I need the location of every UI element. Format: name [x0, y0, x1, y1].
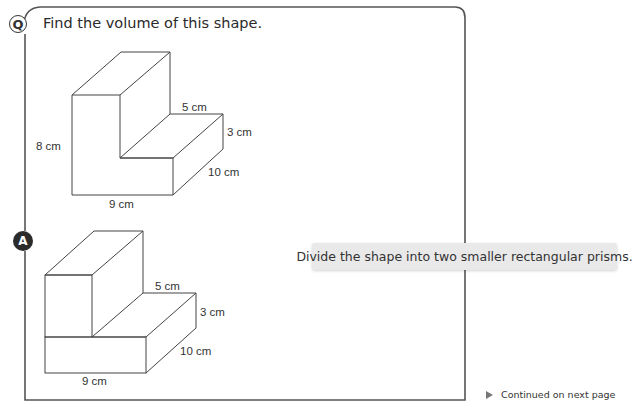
label-width: 9 cm	[109, 198, 134, 210]
answer-label-step-width: 5 cm	[155, 280, 180, 292]
hint-callout: Divide the shape into two smaller rectan…	[312, 243, 617, 270]
continued-label: Continued on next page	[501, 389, 615, 400]
answer-divided-shape-figure	[45, 231, 196, 373]
answer-badge: A	[13, 231, 33, 251]
label-height: 8 cm	[36, 140, 61, 152]
question-text: Find the volume of this shape.	[43, 15, 262, 31]
answer-label-step-height: 3 cm	[200, 306, 225, 318]
question-l-shape-figure	[72, 52, 223, 195]
answer-label-depth: 10 cm	[180, 345, 211, 357]
label-step-height: 3 cm	[227, 126, 252, 138]
continued-on-next-page: Continued on next page	[486, 389, 615, 400]
question-answer-frame	[0, 0, 633, 409]
label-step-width: 5 cm	[182, 101, 207, 113]
play-triangle-icon	[486, 391, 493, 399]
answer-label-width: 9 cm	[82, 375, 107, 387]
question-badge: Q	[9, 15, 27, 33]
label-depth: 10 cm	[208, 166, 239, 178]
